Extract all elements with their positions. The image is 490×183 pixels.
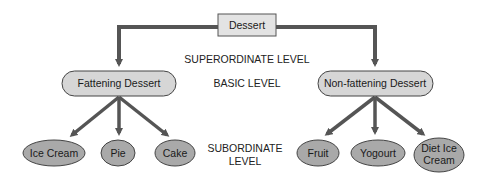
basic-connectors	[72, 97, 423, 135]
ice-cream-label: Ice Cream	[30, 147, 79, 159]
arrow-to-fruit	[327, 97, 375, 134]
arrow-to-cake	[119, 97, 167, 135]
yogourt-label: Yogourt	[360, 147, 396, 159]
sub-node-ice-cream: Ice Cream	[23, 140, 85, 166]
subordinate-level-label-line1: SUBORDINATE	[207, 142, 282, 154]
sub-node-pie: Pie	[101, 140, 135, 166]
sub-node-yogourt: Yogourt	[351, 140, 405, 166]
basic-node-non-fattening-dessert: Non-fattening Dessert	[318, 71, 433, 96]
non-fattening-dessert-label: Non-fattening Dessert	[324, 77, 426, 89]
pie-label: Pie	[110, 147, 125, 159]
diagram-canvas: Dessert SUPERORDINATE LEVEL BASIC LEVEL …	[0, 0, 490, 183]
root-label: Dessert	[229, 19, 265, 31]
basic-node-fattening-dessert: Fattening Dessert	[62, 71, 176, 96]
dessert-hierarchy-diagram: Dessert SUPERORDINATE LEVEL BASIC LEVEL …	[0, 0, 490, 183]
diet-ice-cream-label-line2: Cream	[423, 154, 455, 166]
sub-node-cake: Cake	[155, 140, 195, 166]
superordinate-level-label: SUPERORDINATE LEVEL	[184, 53, 309, 65]
subordinate-level-label-line2: LEVEL	[229, 155, 262, 167]
fruit-label: Fruit	[308, 147, 329, 159]
cake-label: Cake	[163, 147, 188, 159]
root-node-dessert: Dessert	[218, 14, 276, 36]
diet-ice-cream-label-line1: Diet Ice	[421, 142, 457, 154]
sub-node-fruit: Fruit	[297, 140, 339, 166]
arrow-to-ice-cream	[72, 97, 119, 135]
basic-level-label: BASIC LEVEL	[213, 77, 280, 89]
fattening-dessert-label: Fattening Dessert	[78, 77, 161, 89]
sub-node-diet-ice-cream: Diet Ice Cream	[414, 138, 464, 172]
arrow-to-diet-ice-cream	[375, 97, 423, 134]
